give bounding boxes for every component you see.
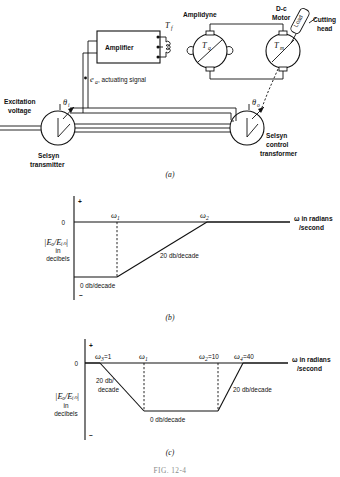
dc-motor-label-line2: Motor bbox=[272, 14, 291, 21]
panel-c-xlabel-line1: ω in radians bbox=[292, 356, 331, 363]
panel-b-omega1-subscript: 1 bbox=[117, 215, 120, 221]
panel-c: + – 0 ω 3 =1 ω 1 ω 2 =10 ω 4 =40 ω in ra… bbox=[54, 339, 331, 457]
theta-out-symbol: θ bbox=[252, 98, 256, 107]
actuating-signal-symbol: e bbox=[90, 75, 94, 84]
caption-b: (b) bbox=[166, 313, 175, 322]
panel-b-xlabel-line1: ω in radians bbox=[294, 215, 333, 222]
panel-b-omega2-subscript: 2 bbox=[206, 215, 209, 221]
panel-c-plus-sign: + bbox=[89, 342, 93, 349]
dc-motor-label-line1: D-c bbox=[276, 5, 287, 12]
panel-c-omega3-value: =1 bbox=[104, 353, 112, 360]
dc-motor-brush-top bbox=[279, 31, 287, 35]
amplidyne-brush-right bbox=[227, 46, 233, 54]
panel-c-zero-tick: 0 bbox=[74, 360, 78, 367]
armature-loop-top bbox=[210, 24, 283, 31]
panel-c-minus-sign: – bbox=[89, 431, 93, 438]
panel-c-ylabel-line2: in bbox=[64, 402, 69, 409]
panel-c-omega2-value: =10 bbox=[208, 353, 219, 360]
selsyn-ct-label-line3: transformer bbox=[260, 150, 297, 157]
amplidyne-brush-top bbox=[206, 31, 214, 35]
figure-bottom-caption: FIG. 12-4 bbox=[0, 466, 340, 475]
figure-svg: Amplifier T f e a , actuating signal Amp… bbox=[0, 0, 340, 477]
ct-output-lead-upper bbox=[88, 108, 236, 121]
panel-a: Amplifier T f e a , actuating signal Amp… bbox=[0, 5, 336, 179]
panel-c-slope-left-line2: decade bbox=[98, 386, 119, 393]
panel-c-ylabel-main: |Eₒ/Eᵢₙ| bbox=[55, 392, 79, 401]
theta-in-subscript: i bbox=[68, 102, 70, 108]
selsyn-transmitter-label-line1: Selsyn bbox=[38, 152, 59, 160]
panel-b-xlabel-line2: /second bbox=[299, 224, 324, 231]
panel-c-omega1-subscript: 1 bbox=[145, 356, 148, 362]
figure-root: Amplifier T f e a , actuating signal Amp… bbox=[0, 0, 340, 477]
panel-c-slope-right: 20 db/decade bbox=[233, 386, 272, 393]
amplidyne-brush-bottom bbox=[206, 67, 214, 71]
cutting-head-label-line2: head bbox=[317, 25, 332, 32]
panel-b-plus-sign: + bbox=[78, 198, 82, 205]
panel-b-segment-rising bbox=[117, 222, 207, 277]
panel-b-ylabel-line2: in bbox=[56, 247, 61, 254]
selsyn-ct-label-line2: control bbox=[266, 141, 289, 148]
actuating-signal-label: , actuating signal bbox=[98, 76, 146, 84]
ct-output-lead-lower bbox=[83, 113, 231, 120]
amplidyne-label: Amplidyne bbox=[183, 11, 217, 19]
panel-c-ylabel-line3: decibels bbox=[54, 410, 77, 417]
cutting-head-label-line1: Cutting bbox=[313, 16, 336, 24]
excitation-label-line2: voltage bbox=[8, 107, 31, 115]
panel-c-slope-left-line1: 20 db/ bbox=[96, 377, 114, 384]
mechanical-feedback-shaft bbox=[261, 69, 278, 110]
panel-b-ylabel-main: |Eₒ/Eᵢₙ| bbox=[44, 238, 68, 247]
theta-out-subscript: o bbox=[257, 102, 260, 108]
panel-b-slope-0db: 0 db/decade bbox=[80, 282, 116, 289]
panel-b-ylabel-line3: decibels bbox=[46, 255, 69, 262]
caption-c: (c) bbox=[166, 448, 175, 457]
panel-b-zero-tick: 0 bbox=[61, 219, 65, 226]
field-coil-winding bbox=[166, 41, 170, 53]
caption-a: (a) bbox=[166, 170, 175, 179]
theta-in-symbol: θ bbox=[63, 98, 67, 107]
excitation-label-line1: Excitation bbox=[4, 98, 36, 105]
panel-b-minus-sign: – bbox=[79, 291, 83, 298]
armature-loop-bottom bbox=[210, 71, 283, 79]
amplidyne-torque-subscript: q bbox=[208, 45, 211, 51]
panel-b-slope-20db: 20 db/decade bbox=[160, 252, 199, 259]
amplifier-label: Amplifier bbox=[105, 44, 134, 52]
amplidyne-brush-left bbox=[187, 46, 193, 54]
panel-c-omega4-value: =40 bbox=[243, 353, 254, 360]
field-winding-subscript: f bbox=[171, 25, 174, 31]
selsyn-ct-label-line1: Selsyn bbox=[266, 132, 287, 140]
panel-c-xlabel-line2: /second bbox=[297, 365, 322, 372]
motor-torque-subscript: m bbox=[280, 45, 284, 51]
panel-c-slope-floor: 0 db/decade bbox=[150, 416, 186, 423]
selsyn-transmitter-label-line2: transmitter bbox=[30, 161, 65, 168]
panel-b: + – 0 ω 1 ω 2 ω in radians /second |Eₒ/E… bbox=[44, 196, 333, 322]
dc-motor-brush-bottom bbox=[279, 67, 287, 71]
actuating-signal-node bbox=[84, 77, 87, 80]
